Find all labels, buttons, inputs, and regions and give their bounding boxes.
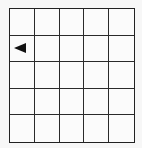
grid-cell-r1-c3[interactable] xyxy=(84,36,109,63)
grid-cell-r3-c1[interactable] xyxy=(35,89,60,116)
grid-cell-r3-c0[interactable] xyxy=(10,89,35,116)
grid-cell-r4-c2[interactable] xyxy=(60,115,85,142)
grid-cell-r4-c3[interactable] xyxy=(84,115,109,142)
grid-cell-r2-c0[interactable] xyxy=(10,62,35,89)
grid-cell-r0-c2[interactable] xyxy=(60,9,85,36)
grid-cell-r1-c2[interactable] xyxy=(60,36,85,63)
grid-cell-r2-c1[interactable] xyxy=(35,62,60,89)
grid-cell-r4-c0[interactable] xyxy=(10,115,35,142)
grid-cell-r0-c3[interactable] xyxy=(84,9,109,36)
grid-cell-r2-c4[interactable] xyxy=(109,62,134,89)
grid-cell-r1-c1[interactable] xyxy=(35,36,60,63)
grid-cell-r0-c4[interactable] xyxy=(109,9,134,36)
grid-cell-r1-c0[interactable] xyxy=(10,36,35,63)
left-arrow-triangle-icon xyxy=(14,43,26,53)
grid-cell-r3-c2[interactable] xyxy=(60,89,85,116)
grid-cell-r0-c0[interactable] xyxy=(10,9,35,36)
grid-cell-r4-c4[interactable] xyxy=(109,115,134,142)
grid-cell-r3-c4[interactable] xyxy=(109,89,134,116)
game-board xyxy=(9,8,135,143)
grid-cell-r0-c1[interactable] xyxy=(35,9,60,36)
grid-cell-r1-c4[interactable] xyxy=(109,36,134,63)
grid-cell-r3-c3[interactable] xyxy=(84,89,109,116)
grid-cell-r2-c2[interactable] xyxy=(60,62,85,89)
grid-cell-r4-c1[interactable] xyxy=(35,115,60,142)
grid-cell-r2-c3[interactable] xyxy=(84,62,109,89)
